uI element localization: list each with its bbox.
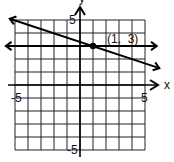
y-axis-label: y: [79, 0, 85, 4]
point-label: (1, 3): [107, 33, 138, 45]
point-marker: [90, 43, 96, 49]
y-tick-5: 5: [69, 14, 76, 26]
y-axis: [75, 7, 85, 157]
coordinate-plane: [0, 0, 174, 162]
x-tick-5: 5: [141, 92, 148, 104]
x-tick-neg5: -5: [11, 92, 22, 104]
x-axis: [8, 80, 158, 90]
y-tick-neg5: -5: [67, 144, 78, 156]
x-axis-label: x: [164, 79, 170, 91]
